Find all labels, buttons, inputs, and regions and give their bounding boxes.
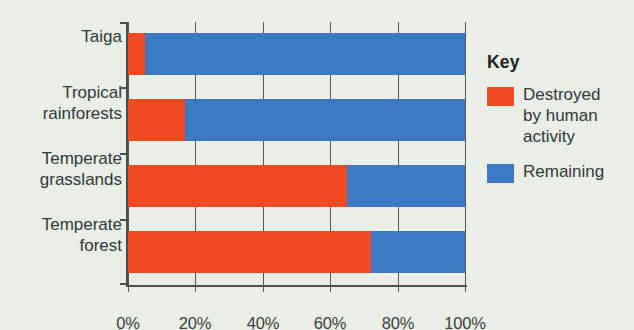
legend-title: Key xyxy=(487,52,632,73)
ytick-mark-0 xyxy=(120,22,129,24)
xtick-mark-60 xyxy=(330,285,331,292)
bar-segment-taiga-remaining xyxy=(145,33,465,75)
xtick-label-0: 0% xyxy=(116,314,139,330)
ytick-mark-3 xyxy=(120,219,129,221)
ytick-mark-2 xyxy=(120,153,129,155)
y-axis-category-labels: Taiga Tropical rainforests Temperate gra… xyxy=(0,22,122,285)
bar-segment-temperate-grasslands-remaining xyxy=(347,165,465,207)
bar-segment-temperate-forest-remaining xyxy=(371,231,465,273)
legend-label-destroyed: Destroyed by human activity xyxy=(523,84,600,147)
xtick-mark-40 xyxy=(263,285,264,292)
xtick-label-60: 60% xyxy=(314,314,346,330)
legend-swatch-destroyed xyxy=(487,87,514,106)
gridline-100 xyxy=(465,22,466,285)
xtick-label-100: 100% xyxy=(444,314,485,330)
xtick-mark-100 xyxy=(465,285,466,292)
plot-area: 0% 20% 40% 60% 80% 100% xyxy=(128,22,465,285)
bar-segment-taiga-destroyed xyxy=(128,33,145,75)
legend-swatch-remaining xyxy=(487,164,514,183)
x-axis-line xyxy=(126,285,467,287)
xtick-label-80: 80% xyxy=(382,314,414,330)
xtick-label-20: 20% xyxy=(179,314,211,330)
xtick-mark-80 xyxy=(398,285,399,292)
ytick-mark-4 xyxy=(120,283,129,285)
xtick-mark-0 xyxy=(128,285,129,292)
bar-segment-temperate-forest-destroyed xyxy=(128,231,371,273)
y-axis-label-temperate-forest: Temperate forest xyxy=(4,214,122,256)
xtick-label-40: 40% xyxy=(247,314,279,330)
ytick-mark-1 xyxy=(120,87,129,89)
y-axis-label-tropical-rainforests: Tropical rainforests xyxy=(4,82,122,124)
legend-item-remaining: Remaining xyxy=(487,161,632,183)
bar-segment-tropical-rainforests-destroyed xyxy=(128,99,185,141)
legend-label-remaining: Remaining xyxy=(523,161,604,182)
legend-item-destroyed: Destroyed by human activity xyxy=(487,84,632,147)
y-axis-label-temperate-grasslands: Temperate grasslands xyxy=(4,148,122,190)
chart-legend: Key Destroyed by human activity Remainin… xyxy=(487,52,632,197)
y-axis-label-taiga: Taiga xyxy=(4,26,122,47)
xtick-mark-20 xyxy=(195,285,196,292)
stacked-bar-chart: Taiga Tropical rainforests Temperate gra… xyxy=(0,0,634,330)
bar-segment-tropical-rainforests-remaining xyxy=(185,99,465,141)
bar-segment-temperate-grasslands-destroyed xyxy=(128,165,347,207)
